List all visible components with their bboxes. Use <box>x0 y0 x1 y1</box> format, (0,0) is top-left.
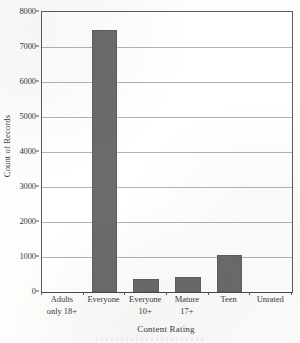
y-tick-label: 8000 <box>19 7 36 16</box>
x-category-label-line2: 17+ <box>166 306 208 318</box>
y-tick-mark <box>36 291 39 292</box>
y-tick-label: 6000 <box>19 77 36 86</box>
x-category-label: Everyone <box>83 294 125 317</box>
bar[interactable] <box>133 279 159 292</box>
x-category-label-line1: Everyone <box>129 294 161 304</box>
y-axis-ticks: 010002000300040005000600070008000 <box>12 0 38 343</box>
y-tick-mark <box>36 186 39 187</box>
x-category-label: Unrated <box>249 294 291 317</box>
x-category-label: Adultsonly 18+ <box>41 294 83 317</box>
bar[interactable] <box>175 277 201 292</box>
bar-slot <box>125 12 167 292</box>
x-category-label: Everyone10+ <box>124 294 166 317</box>
x-category-label-line1: Teen <box>220 294 236 304</box>
bar[interactable] <box>217 255 243 292</box>
y-tick-mark <box>36 221 39 222</box>
x-category-label: Teen <box>208 294 250 317</box>
scan-artifact <box>96 337 206 341</box>
x-category-label-line2: 10+ <box>124 306 166 318</box>
y-tick-mark <box>36 256 39 257</box>
x-category-label-line2 <box>83 306 125 318</box>
bar-slot <box>209 12 251 292</box>
x-tick-mark <box>291 292 292 295</box>
y-tick-label: 1000 <box>19 252 36 261</box>
x-category-label-line2 <box>249 306 291 318</box>
y-tick-mark <box>36 46 39 47</box>
y-tick-label: 3000 <box>19 182 36 191</box>
plot-area <box>41 11 293 293</box>
x-category-label: Mature17+ <box>166 294 208 317</box>
bar-slot <box>42 12 84 292</box>
y-tick-label: 2000 <box>19 217 36 226</box>
x-category-label-line2: only 18+ <box>41 306 83 318</box>
bar-chart-figure: Count of Records 01000200030004000500060… <box>0 0 300 343</box>
x-category-label-line1: Everyone <box>87 294 119 304</box>
y-tick-label: 7000 <box>19 42 36 51</box>
x-axis-labels: Adultsonly 18+Everyone Everyone10+Mature… <box>41 294 291 317</box>
y-tick-label: 4000 <box>19 147 36 156</box>
x-axis-title: Content Rating <box>41 324 291 334</box>
x-category-label-line2 <box>208 306 250 318</box>
bar-slot <box>250 12 292 292</box>
bar[interactable] <box>92 30 118 292</box>
x-category-label-line1: Adults <box>51 294 73 304</box>
bar-series <box>42 12 292 292</box>
x-category-label-line1: Unrated <box>257 294 284 304</box>
bar-slot <box>167 12 209 292</box>
y-tick-mark <box>36 11 39 12</box>
y-tick-mark <box>36 81 39 82</box>
x-category-label-line1: Mature <box>175 294 199 304</box>
y-axis-title-text: Count of Records <box>2 114 12 176</box>
y-tick-mark <box>36 151 39 152</box>
y-tick-label: 5000 <box>19 112 36 121</box>
bar-slot <box>84 12 126 292</box>
y-tick-mark <box>36 116 39 117</box>
